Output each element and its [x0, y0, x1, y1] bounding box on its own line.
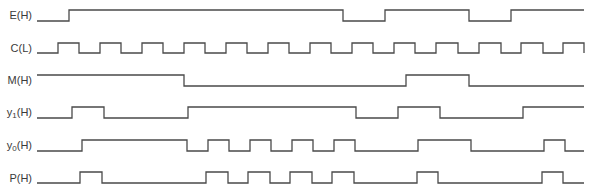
- waveforms: [0, 0, 592, 195]
- waveform-e: [37, 10, 584, 21]
- waveform-p: [37, 172, 584, 183]
- waveform-y1: [37, 107, 584, 118]
- waveform-c: [37, 43, 584, 53]
- timing-diagram: E(H) C(L) M(H) y1(H) y0(H) P(H): [0, 0, 592, 195]
- waveform-y0: [37, 140, 584, 151]
- waveform-m: [37, 75, 584, 86]
